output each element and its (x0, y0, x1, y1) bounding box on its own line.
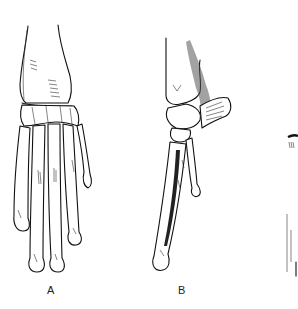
finger-1 (14, 126, 30, 231)
thumb (77, 124, 91, 188)
radius-bone (20, 25, 71, 103)
panel-label-b: B (178, 284, 185, 296)
small-finger-lateral (186, 138, 200, 197)
finger-3 (48, 124, 64, 272)
finger-4 (63, 124, 81, 245)
finger-2 (29, 125, 45, 272)
panel-b-drawing (153, 38, 231, 270)
metacarpal-lateral (153, 142, 186, 270)
panel-a-drawing (14, 25, 91, 272)
carpal-bones-lateral (166, 104, 200, 129)
panel-c-drawing (287, 135, 298, 276)
panel-label-a: A (47, 284, 54, 296)
anatomy-illustration (0, 0, 298, 309)
